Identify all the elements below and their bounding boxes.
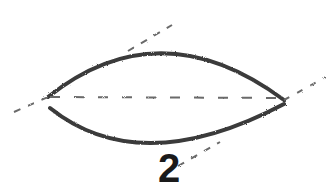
tangent-line-right [284,77,326,100]
figure-label: 2 [151,148,187,188]
lens-bottom-arc [50,104,284,143]
lens-top-arc [48,53,284,100]
dashed-axis [50,97,282,98]
lens-diagram: 2 [0,0,326,192]
tangent-line-top [128,25,172,51]
tangent-line-left [14,97,48,112]
